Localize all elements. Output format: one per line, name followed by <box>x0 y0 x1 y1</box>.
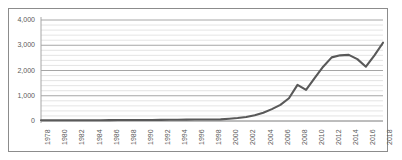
y-axis-tick-label: 4,000 <box>17 16 35 23</box>
x-axis-tick-label: 1990 <box>147 129 154 145</box>
x-axis-tick-label: 1988 <box>130 129 137 145</box>
x-axis-tick-label: 2018 <box>386 129 393 145</box>
line-chart-figure: 01,0002,0003,0004,000 197819801982198419… <box>0 0 402 160</box>
x-axis-tick-label: 2012 <box>335 129 342 145</box>
x-axis-tick-label: 1994 <box>181 129 188 145</box>
x-axis-tick-label: 2006 <box>284 129 291 145</box>
y-axis-tick-label: 3,000 <box>17 41 35 48</box>
x-axis-tick-label: 1998 <box>215 129 222 145</box>
x-axis-tick-label: 1996 <box>198 129 205 145</box>
x-axis-tick-label: 1986 <box>113 129 120 145</box>
x-axis-tick-label: 1984 <box>96 129 103 145</box>
x-axis-tick-label: 1978 <box>44 129 51 145</box>
chart-plot-frame: 01,0002,0003,0004,000 197819801982198419… <box>8 8 388 152</box>
y-axis-tick-label: 2,000 <box>17 67 35 74</box>
y-axis-tick-label: 0 <box>31 117 35 124</box>
x-axis-tick-label: 2014 <box>352 129 359 145</box>
x-axis-tick-label: 2002 <box>249 129 256 145</box>
x-axis-tick-label: 2010 <box>318 129 325 145</box>
x-axis-tick-label: 1982 <box>78 129 85 145</box>
data-series-line <box>41 43 383 121</box>
x-axis-tick-label: 2004 <box>267 129 274 145</box>
x-axis-tick-label: 1980 <box>61 129 68 145</box>
x-axis-tick-label: 2000 <box>232 129 239 145</box>
x-axis-tick-label: 1992 <box>164 129 171 145</box>
y-axis-tick-label: 1,000 <box>17 92 35 99</box>
x-axis-tick-label: 2008 <box>301 129 308 145</box>
x-axis-tick-label: 2016 <box>369 129 376 145</box>
